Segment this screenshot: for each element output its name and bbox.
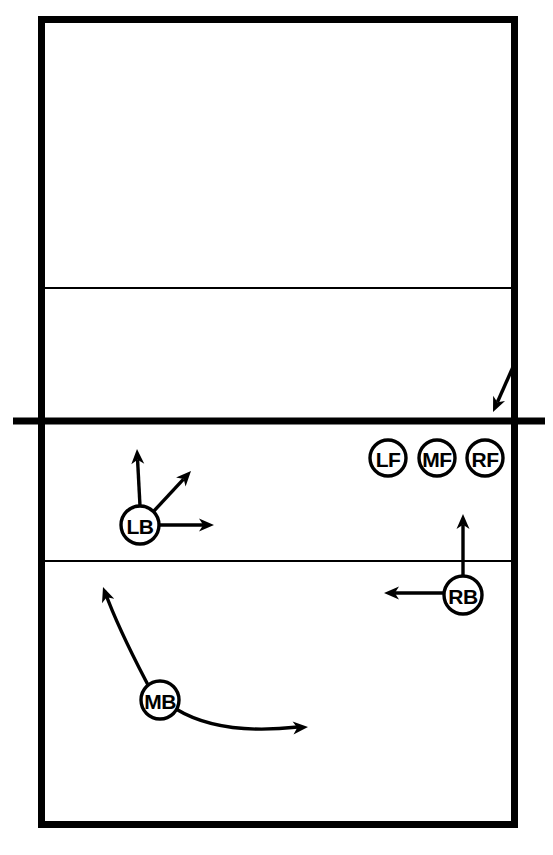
player-label-lb: LB [127,515,154,538]
court-lines-group [13,20,545,825]
player-label-mf: MF [422,448,452,471]
player-marker-lf[interactable]: LF [370,440,406,476]
player-marker-rf[interactable]: RF [467,440,503,476]
player-marker-mb[interactable]: MB [141,681,179,719]
volleyball-court-diagram: LFMFRFLBRBMB [0,0,553,855]
player-marker-mf[interactable]: MF [419,440,455,476]
player-label-mb: MB [144,690,176,713]
player-label-rf: RF [472,448,500,471]
player-label-lf: LF [376,448,401,471]
player-marker-lb[interactable]: LB [121,506,159,544]
lb-arrow-up-shaft [138,460,140,506]
player-label-rb: RB [448,585,478,608]
player-marker-rb[interactable]: RB [444,576,482,614]
court-svg-canvas: LFMFRFLBRBMB [0,0,553,855]
